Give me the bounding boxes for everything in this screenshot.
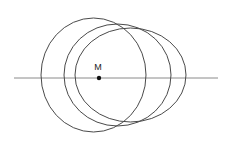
point-M-label: M: [94, 62, 102, 72]
circle-right: [75, 28, 186, 122]
geometry-figure: M: [0, 0, 229, 147]
figure-canvas: M: [0, 0, 229, 147]
circle-left: [41, 18, 146, 132]
point-M-dot: [97, 76, 101, 80]
circle-middle: [64, 24, 171, 126]
